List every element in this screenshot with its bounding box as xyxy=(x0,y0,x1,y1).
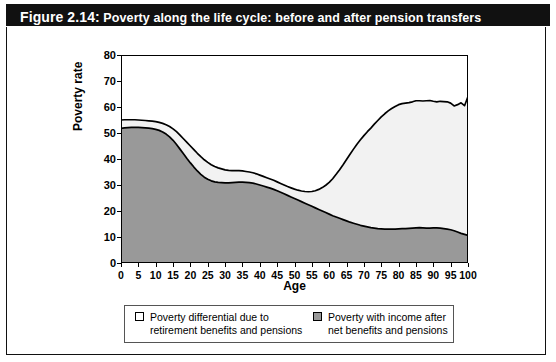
x-tick-mark xyxy=(208,263,209,267)
figure-number: Figure 2.14: xyxy=(20,9,100,25)
x-tick-label: 10 xyxy=(150,269,162,281)
legend-item-after-benefits: Poverty with income after net benefits a… xyxy=(313,311,449,337)
y-tick-label: 30 xyxy=(104,179,116,191)
x-tick-label: 70 xyxy=(358,269,370,281)
y-tick-mark xyxy=(117,237,121,238)
x-tick-label: 60 xyxy=(323,269,335,281)
x-tick-mark xyxy=(138,263,139,267)
x-tick-label: 35 xyxy=(237,269,249,281)
x-tick-label: 20 xyxy=(185,269,197,281)
y-tick-mark xyxy=(117,81,121,82)
y-tick-label: 10 xyxy=(104,231,116,243)
x-tick-label: 50 xyxy=(289,269,301,281)
x-tick-mark xyxy=(121,263,122,267)
y-tick-label: 60 xyxy=(104,101,116,113)
x-tick-mark xyxy=(433,263,434,267)
plot-top-rule xyxy=(121,55,468,56)
plot-area: 01020304050607080 0510152025303540455055… xyxy=(121,55,468,263)
x-tick-label: 55 xyxy=(306,269,318,281)
chart-canvas: Poverty rate Age 01020304050607080 05101… xyxy=(7,27,547,297)
x-tick-mark xyxy=(260,263,261,267)
y-tick-label: 80 xyxy=(104,49,116,61)
figure-frame: Poverty rate Age 01020304050607080 05101… xyxy=(6,27,546,355)
figure-caption: Poverty along the life cycle: before and… xyxy=(103,11,481,25)
y-tick-mark xyxy=(117,55,121,56)
x-tick-mark xyxy=(399,263,400,267)
x-tick-label: 90 xyxy=(427,269,439,281)
legend-swatch-white-icon xyxy=(135,312,144,321)
plot-axes-lines xyxy=(121,55,468,263)
x-tick-label: 30 xyxy=(219,269,231,281)
x-tick-mark xyxy=(468,263,469,267)
x-tick-label: 25 xyxy=(202,269,214,281)
y-tick-mark xyxy=(117,107,121,108)
legend-label-after-benefits: Poverty with income after net benefits a… xyxy=(328,311,448,337)
x-tick-label: 15 xyxy=(167,269,179,281)
x-tick-mark xyxy=(190,263,191,267)
y-tick-mark xyxy=(117,159,121,160)
figure-title: Figure 2.14: Poverty along the life cycl… xyxy=(20,9,481,25)
x-tick-mark xyxy=(416,263,417,267)
x-tick-label: 45 xyxy=(271,269,283,281)
x-tick-mark xyxy=(295,263,296,267)
x-tick-label: 0 xyxy=(118,269,124,281)
x-tick-mark xyxy=(381,263,382,267)
x-tick-mark xyxy=(156,263,157,267)
y-tick-mark xyxy=(117,211,121,212)
x-tick-mark xyxy=(329,263,330,267)
y-tick-mark xyxy=(117,185,121,186)
x-tick-mark xyxy=(173,263,174,267)
y-tick-label: 20 xyxy=(104,205,116,217)
x-tick-mark xyxy=(364,263,365,267)
y-tick-label: 40 xyxy=(104,153,116,165)
figure-container: Figure 2.14: Poverty along the life cycl… xyxy=(0,0,556,362)
legend-swatch-gray-icon xyxy=(313,312,322,321)
x-tick-label: 80 xyxy=(393,269,405,281)
x-tick-mark xyxy=(242,263,243,267)
x-tick-label: 75 xyxy=(375,269,387,281)
x-tick-mark xyxy=(277,263,278,267)
x-tick-label: 100 xyxy=(459,269,477,281)
figure-title-bar: Figure 2.14: Poverty along the life cycl… xyxy=(6,4,550,26)
x-tick-mark xyxy=(225,263,226,267)
x-tick-label: 85 xyxy=(410,269,422,281)
chart-legend: Poverty differential due to retirement b… xyxy=(124,305,454,343)
x-tick-mark xyxy=(312,263,313,267)
legend-label-differential: Poverty differential due to retirement b… xyxy=(150,311,302,337)
y-tick-label: 70 xyxy=(104,75,116,87)
x-axis-label: Age xyxy=(121,279,468,293)
legend-item-differential: Poverty differential due to retirement b… xyxy=(135,311,313,337)
x-tick-mark xyxy=(451,263,452,267)
y-tick-mark xyxy=(117,133,121,134)
y-axis-label: Poverty rate xyxy=(71,62,85,131)
x-tick-label: 40 xyxy=(254,269,266,281)
y-tick-label: 50 xyxy=(104,127,116,139)
x-tick-label: 65 xyxy=(341,269,353,281)
x-tick-mark xyxy=(347,263,348,267)
plot-right-rule xyxy=(467,55,468,263)
x-tick-label: 95 xyxy=(445,269,457,281)
y-tick-label: 0 xyxy=(110,257,116,269)
x-tick-label: 5 xyxy=(135,269,141,281)
